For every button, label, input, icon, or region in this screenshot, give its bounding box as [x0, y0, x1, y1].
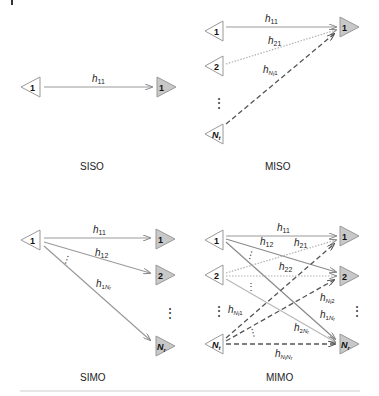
label-hNt2: hNt2	[320, 292, 335, 305]
mimo-caption: MIMO	[266, 372, 293, 383]
ellipsis: ⋮	[246, 281, 256, 292]
label-h11: h11	[277, 222, 290, 234]
simo-caption: SIMO	[80, 372, 106, 383]
link-h21	[226, 30, 336, 64]
mimo-diagram: 1 h11 1 SISO 1 2 ⋮ Nt h11 h21 hNt1 1 MIS…	[0, 0, 379, 396]
ellipsis: ⋮	[247, 326, 260, 339]
siso-panel: 1 h11 1 SISO	[21, 73, 176, 172]
simo-panel: 1 ⋮ h11 h12 h1Nr 1 2 ⋮ Nr SIMO	[21, 224, 177, 383]
label-hNtNr: hNtNr	[275, 348, 293, 361]
label-h22: h22	[279, 261, 292, 273]
rx1-label: 1	[158, 235, 163, 245]
ellipsis: ⋮	[60, 252, 73, 266]
mimo-panel: 1 2 ⋮ Nt ⋮ ⋮ ⋮ h11 h12 h21 h22 hNt1 hNt2…	[205, 222, 364, 383]
label-h1Nr: h1Nr	[320, 309, 335, 322]
page-mark	[11, 0, 13, 5]
label-h12: h12	[260, 236, 273, 248]
tx1-label: 1	[214, 27, 219, 37]
tx2-label: 2	[214, 271, 219, 281]
label-hNt1: hNt1	[228, 304, 243, 317]
rx1-label: 1	[342, 23, 347, 33]
label-hNt1: hNt1	[263, 64, 278, 77]
link-hNt1	[226, 34, 334, 124]
caption-fade	[20, 390, 360, 392]
tx1-label: 1	[30, 236, 35, 246]
ellipsis: ⋮	[350, 303, 364, 319]
label-h21: h21	[294, 237, 307, 249]
tx2-label: 2	[214, 62, 219, 72]
miso-caption: MISO	[265, 161, 291, 172]
label-h11: h11	[92, 73, 105, 85]
ellipsis: ⋮	[212, 303, 226, 319]
label-h11: h11	[265, 13, 278, 25]
tx-label: 1	[30, 83, 35, 93]
label-h1Nr: h1Nr	[96, 278, 111, 291]
rx-label: 1	[159, 83, 164, 93]
label-h2Nr: h2Nr	[294, 322, 309, 335]
rx2-label: 2	[342, 272, 347, 282]
link-h1Nr	[44, 246, 150, 340]
ellipsis: ⋮	[212, 95, 226, 111]
miso-panel: 1 2 ⋮ Nt h11 h21 hNt1 1 MISO	[205, 13, 359, 172]
ellipsis: ⋮	[163, 305, 177, 321]
siso-caption: SISO	[80, 161, 104, 172]
rx1-label: 1	[342, 232, 347, 242]
label-h12: h12	[95, 247, 108, 259]
label-h11: h11	[93, 224, 106, 236]
rx2-label: 2	[158, 271, 163, 281]
tx1-label: 1	[214, 236, 219, 246]
label-h21: h21	[268, 35, 281, 47]
